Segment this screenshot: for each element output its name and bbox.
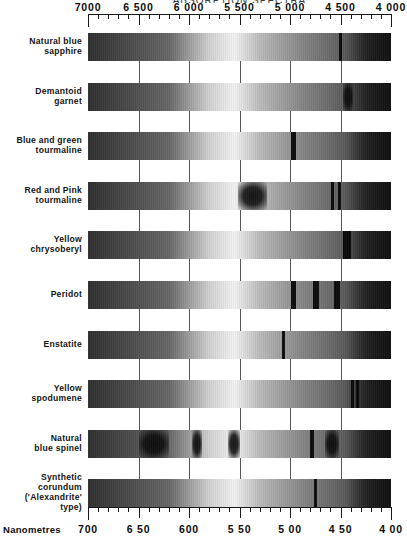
nanometres-unit-label: Nanometres [3, 524, 61, 535]
spectrum-row-label-line: Natural [0, 433, 82, 443]
gap-gridline [341, 309, 342, 331]
gap-gridline [240, 111, 241, 133]
ruler-minor-tick [280, 14, 281, 19]
ruler-major-tick [341, 14, 342, 25]
gap-gridline [189, 61, 190, 83]
ruler-minor-tick [250, 14, 251, 19]
spectrum-row-label: Yellowspodumene [0, 383, 82, 403]
gap-gridline [139, 259, 140, 281]
spectrum-row-label: Blue and greentourmaline [0, 135, 82, 155]
ruler-minor-tick [320, 507, 321, 512]
axis-tick-label: 700 [78, 523, 98, 535]
spectrum-band [88, 430, 391, 458]
gap-gridline [341, 259, 342, 281]
gap-gridline [290, 160, 291, 182]
ruler-major-tick [139, 507, 140, 518]
ruler-minor-tick [128, 14, 129, 19]
gap-gridline [341, 160, 342, 182]
spectrum-row-label-line: Red and Pink [0, 185, 82, 195]
spectrum-row-label-line: type) [0, 502, 82, 512]
spectrum-row-label: Naturalblue spinel [0, 433, 82, 453]
absorption-line [192, 430, 202, 458]
ruler-major-tick [341, 507, 342, 518]
ruler-major-tick [139, 14, 140, 25]
gap-gridline [290, 309, 291, 331]
axis-tick-label: 4 500 [325, 1, 355, 13]
spectrum-row-label-line: tourmaline [0, 145, 82, 155]
gap-gridline [290, 458, 291, 480]
gap-gridline [290, 61, 291, 83]
ruler-minor-tick [128, 507, 129, 512]
ruler-minor-tick [179, 507, 180, 512]
ruler-minor-tick [229, 507, 230, 512]
top-axis-labels: 70006 5006 0005 5005 0004 5004 000 [88, 1, 391, 14]
ruler-major-tick [240, 14, 241, 25]
spectrum-row-label-line: sapphire [0, 46, 82, 56]
absorption-line [310, 430, 314, 458]
bottom-axis-labels: 7006 506005 505 004 504 00 [88, 523, 391, 536]
axis-tick-label: 4 000 [376, 1, 406, 13]
axis-tick-label: 4 50 [329, 523, 353, 535]
spectrum-row-label-line: Yellow [0, 383, 82, 393]
blue-end-cutoff [346, 281, 391, 309]
ruler-major-tick [240, 507, 241, 518]
ruler-minor-tick [310, 507, 311, 512]
ruler-minor-tick [371, 507, 372, 512]
ruler-minor-tick [381, 14, 382, 19]
spectrum-row-label-line: Peridot [0, 289, 82, 299]
ruler-minor-tick [361, 507, 362, 512]
ruler-minor-tick [179, 14, 180, 19]
spectrum-band [88, 231, 391, 259]
ruler-major-tick [290, 507, 291, 518]
ruler-minor-tick [159, 14, 160, 19]
gap-gridline [290, 359, 291, 381]
axis-tick-label: 5 500 [224, 1, 254, 13]
ruler-major-tick [290, 14, 291, 25]
gap-gridline [189, 210, 190, 232]
spectrum-band [88, 33, 391, 61]
ruler-minor-tick [280, 507, 281, 512]
spectrum-row-label: Yellowchrysoberyl [0, 234, 82, 254]
spectrum-row-label-line: tourmaline [0, 195, 82, 205]
spectrum-row-label: Red and Pinktourmaline [0, 185, 82, 205]
bottom-ruler-nanometres [88, 507, 391, 523]
spectrum-row-label: Demantoidgarnet [0, 86, 82, 106]
ruler-minor-tick [199, 507, 200, 512]
gap-gridline [139, 111, 140, 133]
axis-tick-label: 6 500 [123, 1, 153, 13]
ruler-minor-tick [351, 507, 352, 512]
spectrum-row-label-line: corundum [0, 482, 82, 492]
ruler-minor-tick [351, 14, 352, 19]
gap-gridline [290, 259, 291, 281]
axis-tick-label: 5 50 [228, 523, 252, 535]
gap-gridline [240, 160, 241, 182]
spectrum-band [88, 182, 391, 210]
ruler-minor-tick [149, 14, 150, 19]
gap-gridline [240, 408, 241, 430]
absorption-line [325, 430, 339, 458]
ruler-minor-tick [260, 507, 261, 512]
ruler-minor-tick [209, 14, 210, 19]
blue-end-cutoff [346, 83, 391, 111]
gap-gridline [139, 210, 140, 232]
absorption-line [313, 281, 319, 309]
axis-tick-label: 4 00 [379, 523, 403, 535]
ruler-minor-tick [300, 507, 301, 512]
spectrum-band [88, 83, 391, 111]
blue-end-cutoff [346, 380, 391, 408]
ruler-minor-tick [118, 14, 119, 19]
ruler-major-tick [88, 14, 89, 27]
ruler-major-tick [391, 14, 392, 27]
spectrum-row-label-line: Blue and green [0, 135, 82, 145]
absorption-line [314, 479, 317, 507]
ruler-minor-tick [169, 507, 170, 512]
ruler-minor-tick [159, 507, 160, 512]
spectrum-row-label-line: spodumene [0, 393, 82, 403]
gap-gridline [341, 210, 342, 232]
absorption-line [291, 281, 296, 309]
blue-end-cutoff [346, 331, 391, 359]
gap-gridline [189, 259, 190, 281]
spectrum-row-label: Peridot [0, 289, 82, 299]
ruler-minor-tick [260, 14, 261, 19]
spectrum-row-label: Syntheticcorundum('Alexandrite'type) [0, 472, 82, 512]
